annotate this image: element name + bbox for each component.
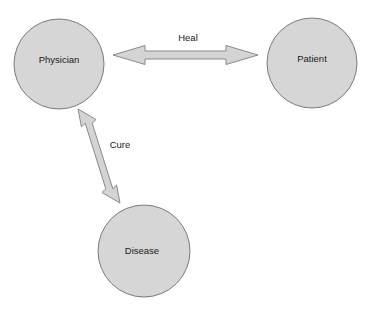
node-label-physician: Physician bbox=[39, 54, 80, 65]
node-patient[interactable]: Patient bbox=[267, 18, 357, 108]
diagram-canvas: Heal Cure Physician Patient Disease bbox=[0, 0, 368, 309]
node-label-patient: Patient bbox=[297, 53, 327, 64]
edge-label-heal: Heal bbox=[178, 32, 198, 43]
edge-label-cure: Cure bbox=[110, 139, 131, 150]
node-disease[interactable]: Disease bbox=[98, 205, 190, 297]
edge-cure: Cure bbox=[78, 109, 130, 203]
cure-double-arrow-shape bbox=[78, 109, 120, 203]
node-physician[interactable]: Physician bbox=[14, 19, 104, 109]
edge-heal: Heal bbox=[113, 32, 258, 65]
heal-double-arrow-shape bbox=[113, 46, 258, 65]
relationship-diagram: Heal Cure Physician Patient Disease bbox=[0, 0, 368, 309]
node-label-disease: Disease bbox=[125, 245, 159, 256]
